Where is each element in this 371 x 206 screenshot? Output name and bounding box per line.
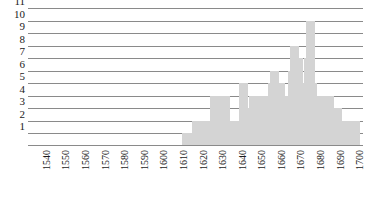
x-tick-label-1650: 1650 (257, 150, 267, 170)
y-tick-label-10: 10 (14, 9, 25, 20)
y-tick-label-11: 11 (14, 0, 25, 7)
x-tick-label-1700: 1700 (355, 150, 365, 170)
y-tick-label-4: 4 (20, 84, 26, 95)
x-tick-label-1550: 1550 (61, 150, 71, 170)
x-tick-label-1610: 1610 (179, 150, 189, 170)
x-tick-label-1690: 1690 (336, 150, 346, 170)
y-tick-label-9: 9 (20, 21, 26, 32)
x-tick-label-1620: 1620 (199, 150, 209, 170)
bar (351, 121, 360, 146)
y-tick-label-8: 8 (20, 34, 26, 45)
y-tick-label-2: 2 (20, 109, 26, 120)
y-tick-label-5: 5 (20, 71, 26, 82)
x-tick-label-1560: 1560 (81, 150, 91, 170)
y-tick-label-6: 6 (20, 59, 26, 70)
x-tick-label-1670: 1670 (296, 150, 306, 170)
x-tick-label-1590: 1590 (140, 150, 150, 170)
x-tick-label-1600: 1600 (159, 150, 169, 170)
x-tick-label-1570: 1570 (101, 150, 111, 170)
x-axis-baseline (28, 145, 363, 146)
x-tick-label-1540: 1540 (42, 150, 52, 170)
x-tick-label-1580: 1580 (120, 150, 130, 170)
plot-area: 1234567891011 (28, 8, 363, 146)
x-tick-label-1680: 1680 (316, 150, 326, 170)
gridline-y-11 (28, 8, 363, 9)
histogram-chart: 1234567891011 15401550156015701580159016… (0, 0, 371, 206)
x-tick-label-1660: 1660 (277, 150, 287, 170)
y-tick-label-7: 7 (20, 46, 26, 57)
x-tick-label-1630: 1630 (218, 150, 228, 170)
x-tick-label-1640: 1640 (238, 150, 248, 170)
x-axis-tick-labels: 1540155015601570158015901600161016201630… (28, 148, 363, 204)
y-tick-label-1: 1 (20, 121, 26, 132)
y-tick-label-3: 3 (20, 96, 26, 107)
